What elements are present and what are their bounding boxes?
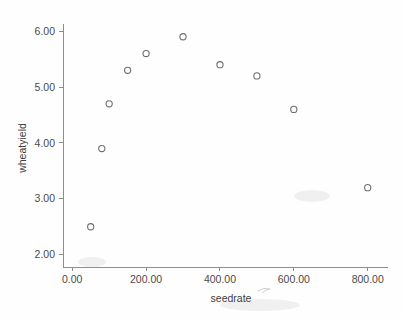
data-point-marker [99, 145, 105, 151]
y-tick-label: 2.00 [35, 248, 56, 260]
data-point-marker [365, 185, 371, 191]
x-tick-label: 800.00 [352, 273, 384, 285]
tick-marks [59, 31, 368, 271]
axes [63, 24, 388, 267]
scatter-chart: 0.00200.00400.00600.00800.00 2.003.004.0… [0, 0, 402, 318]
data-points [88, 34, 371, 230]
plot-canvas: 0.00200.00400.00600.00800.00 2.003.004.0… [0, 0, 402, 318]
y-tick-label: 5.00 [35, 81, 56, 93]
data-point-marker [180, 34, 186, 40]
x-tick-label: 400.00 [204, 273, 236, 285]
data-point-marker [217, 62, 223, 68]
scan-artifact-icon [78, 190, 330, 311]
data-point-marker [143, 50, 149, 56]
y-axis-label: wheatyield [16, 123, 28, 174]
data-point-marker [291, 106, 297, 112]
y-tick-labels: 2.003.004.005.006.00 [35, 25, 56, 261]
y-tick-label: 6.00 [35, 25, 56, 37]
x-axis-label: seedrate [211, 292, 252, 304]
data-point-marker [88, 224, 94, 230]
y-tick-label: 3.00 [35, 192, 56, 204]
x-tick-label: 0.00 [62, 273, 83, 285]
data-point-marker [254, 73, 260, 79]
x-tick-label: 600.00 [278, 273, 310, 285]
y-tick-label: 4.00 [35, 137, 56, 149]
x-tick-labels: 0.00200.00400.00600.00800.00 [62, 273, 384, 285]
x-tick-label: 200.00 [130, 273, 162, 285]
data-point-marker [125, 67, 131, 73]
data-point-marker [106, 101, 112, 107]
